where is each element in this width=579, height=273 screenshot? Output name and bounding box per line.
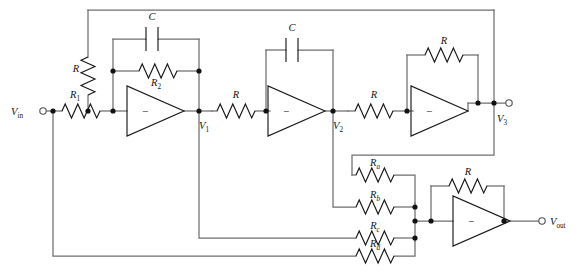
junction-opamp4-in [428, 218, 433, 223]
label-vin: Vin [11, 106, 23, 120]
junction-opamp3-in [404, 108, 409, 113]
opamp-4-minus: − [468, 215, 474, 227]
junction-v2 [330, 108, 335, 113]
circuit-schematic: Vin R1 R R2 C V1 R C V2 R R V3 Ra Rb Rc … [0, 0, 579, 273]
input-terminal[interactable] [40, 108, 46, 114]
junction-v1 [196, 108, 201, 113]
capacitor-c1 [146, 27, 158, 51]
junction-bus-rc [412, 235, 417, 240]
wire-ra-to-bus [394, 175, 415, 203]
opamp-1-minus: − [142, 105, 148, 117]
label-v3: V3 [497, 113, 507, 127]
resistor-ra [356, 168, 394, 182]
wire-rd-to-bus [394, 238, 415, 256]
label-r-shunt: R [72, 63, 80, 74]
wire-layer [46, 10, 539, 256]
capacitor-c2 [286, 38, 298, 62]
label-rb: Rb [369, 189, 380, 203]
resistor-r2 [139, 64, 177, 78]
resistor-r1 [62, 104, 100, 118]
label-v1: V1 [199, 120, 209, 134]
junction-nodeB [110, 108, 115, 113]
resistor-rb [356, 200, 394, 214]
label-c1: C [148, 11, 156, 22]
resistor-r-shunt [81, 57, 95, 95]
resistor-r-stage3 [355, 104, 393, 118]
v3-terminal[interactable] [506, 100, 512, 106]
junction-nodeA [85, 108, 90, 113]
label-layer: Vin R1 R R2 C V1 R C V2 R R V3 Ra Rb Rc … [11, 11, 566, 252]
device-layer [40, 27, 545, 263]
output-terminal[interactable] [539, 218, 545, 224]
opamp-3 [411, 86, 468, 136]
schematic-canvas: Vin R1 R R2 C V1 R C V2 R R V3 Ra Rb Rc … [0, 0, 579, 273]
label-r-stage3: R [370, 89, 378, 100]
label-v2: V2 [333, 120, 343, 134]
opamp-2-minus: − [283, 105, 289, 117]
junction-opamp3-out [475, 100, 480, 105]
label-r-fb4: R [464, 166, 472, 177]
label-r-fb3: R [440, 35, 448, 46]
junction-bus-sum [412, 218, 417, 223]
opamp-2 [268, 86, 325, 136]
resistor-r-fb3 [425, 48, 463, 62]
opamp-3-minus: − [426, 105, 432, 117]
junction-vin [50, 108, 55, 113]
resistor-r-fb4 [449, 179, 487, 193]
junction-v3 [491, 100, 496, 105]
label-rc: Rc [369, 220, 380, 234]
label-c2: C [288, 22, 296, 33]
junction-r2-left [110, 68, 115, 73]
junction-opamp4-out [501, 218, 506, 223]
label-ra: Ra [369, 157, 380, 171]
junction-bus-rb [412, 204, 417, 209]
label-r2: R2 [150, 77, 161, 91]
junction-r2-right [196, 68, 201, 73]
junction-opamp2-in [263, 108, 268, 113]
resistor-r-stage2 [217, 104, 255, 118]
label-r-stage2: R [232, 89, 240, 100]
resistor-rd [356, 249, 394, 263]
label-r1: R1 [69, 89, 80, 103]
label-rd: Rd [369, 238, 380, 252]
label-vout: Vout [550, 216, 566, 230]
opamp-1 [127, 86, 184, 136]
